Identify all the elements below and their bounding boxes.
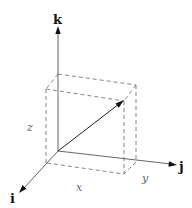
- k-axis-label: k: [53, 12, 63, 27]
- i-axis-label: i: [10, 191, 15, 206]
- x-component-label: x: [76, 181, 83, 194]
- box-edge-top-right: [124, 85, 136, 101]
- position-vector: [58, 100, 124, 151]
- box-edge-bottom-right: [124, 162, 136, 174]
- dashed-box: [46, 74, 136, 174]
- j-arrowhead-icon: [168, 161, 177, 166]
- y-component-label: y: [141, 172, 149, 185]
- box-edge-top-back: [58, 74, 136, 85]
- box-edge-top-left: [46, 74, 58, 89]
- box-edge-bottom-front: [47, 163, 124, 174]
- z-component-label: z: [26, 121, 33, 134]
- vector-components-diagram: k j i z x y: [0, 0, 192, 208]
- j-axis-label: j: [178, 159, 184, 174]
- k-arrowhead-icon: [55, 26, 60, 34]
- i-axis: [19, 151, 58, 193]
- k-axis: [55, 26, 60, 151]
- vector-arrowhead-icon: [116, 100, 125, 108]
- j-axis: [58, 151, 177, 167]
